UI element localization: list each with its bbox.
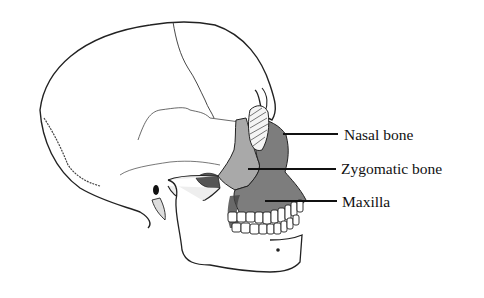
label-nasal-bone: Nasal bone — [344, 127, 413, 143]
mastoid-process — [152, 198, 165, 220]
cranium-outline — [40, 22, 275, 120]
label-zygomatic-bone: Zygomatic bone — [341, 161, 442, 177]
ear-canal-icon — [153, 185, 159, 195]
mental-foramen — [276, 248, 280, 252]
squamosal-suture — [138, 108, 240, 140]
skull-diagram — [0, 0, 484, 298]
lambdoid-suture — [44, 118, 100, 186]
temporal-line — [120, 161, 220, 175]
label-maxilla: Maxilla — [342, 194, 390, 210]
